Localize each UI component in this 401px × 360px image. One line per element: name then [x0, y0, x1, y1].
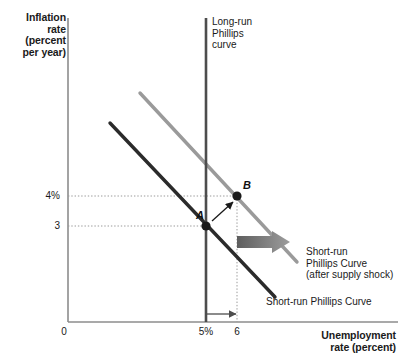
point-a-label: A — [196, 210, 204, 222]
x-axis-title: Unemployment rate (percent) — [300, 330, 396, 353]
arrow-a-to-b — [212, 202, 233, 221]
x-tick-label-6: 6 — [228, 326, 246, 338]
x-tick-label-5: 5% — [192, 326, 220, 338]
point-b-marker — [232, 191, 241, 200]
point-b-label: B — [243, 180, 251, 192]
y-tick-label-4: 4% — [24, 190, 60, 202]
x-tick-label-0: 0 — [56, 326, 72, 338]
short-run-curve-original-label: Short-run Phillips Curve — [266, 296, 372, 308]
long-run-curve-label: Long-run Phillips curve — [212, 16, 252, 51]
short-run-curve-after-shock-label: Short-run Phillips Curve (after supply s… — [306, 246, 393, 281]
block-arrow-curve-shift — [237, 231, 290, 253]
point-a-marker — [201, 221, 210, 230]
y-tick-label-3: 3 — [24, 220, 60, 232]
y-axis-title: Inflation rate (percent per year) — [2, 12, 66, 58]
phillips-curve-chart: Inflation rate (percent per year) Unempl… — [0, 0, 401, 360]
